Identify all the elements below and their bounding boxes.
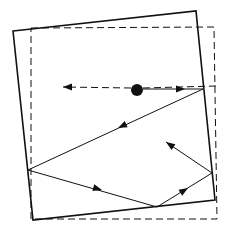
arrowheads <box>63 84 190 196</box>
reflection-diagram <box>0 0 228 231</box>
dashed-direction-line <box>63 87 131 88</box>
arrowhead-icon <box>92 184 103 193</box>
ball <box>131 84 143 96</box>
arrowhead-icon <box>117 121 128 131</box>
arrowhead-icon <box>63 84 72 91</box>
arrowhead-icon <box>164 139 175 150</box>
arrowhead-icon <box>179 185 190 196</box>
